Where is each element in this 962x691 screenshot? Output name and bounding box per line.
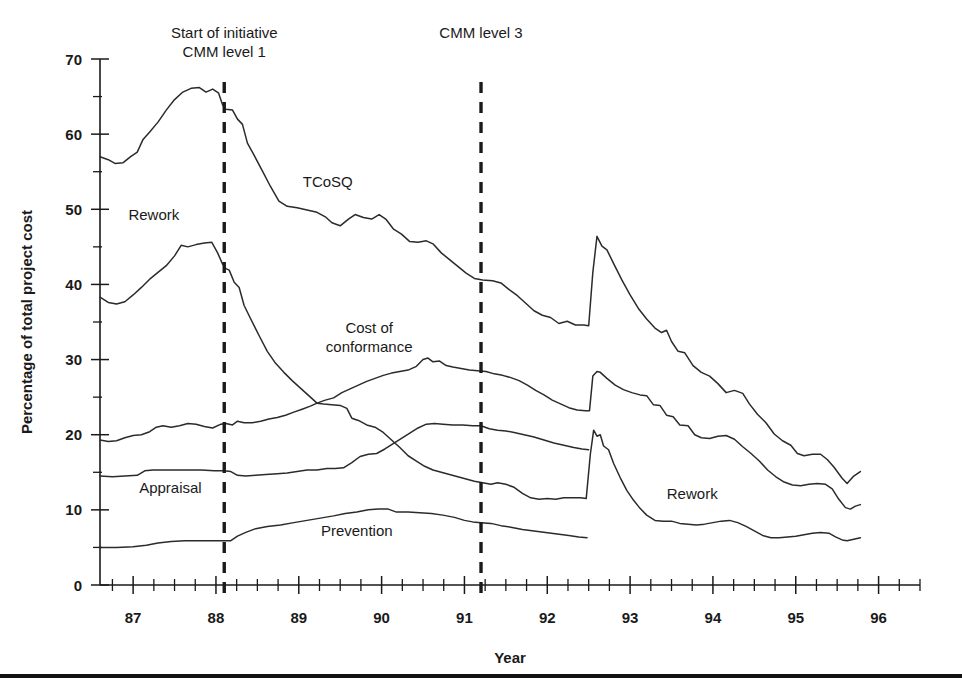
series-label-rework-secondary: Rework (667, 485, 718, 502)
x-axis-tick-label: 96 (870, 609, 887, 626)
annotation-label-start-of-initiative: Start of initiative (171, 24, 278, 41)
y-axis-tick-label: 30 (65, 351, 82, 368)
x-axis-tick-label: 90 (373, 609, 390, 626)
series-label-TCoSQ: TCoSQ (303, 173, 353, 190)
series-line-appraisal (100, 423, 589, 476)
y-axis-tick-label: 10 (65, 501, 82, 518)
y-axis-tick-label: 40 (65, 276, 82, 293)
y-axis-tick-label: 0 (74, 577, 82, 594)
annotation-label-cmm-level-3: CMM level 3 (439, 24, 522, 41)
series-group (100, 88, 860, 548)
series-label-cost-of-conformance: conformance (326, 338, 413, 355)
events-group: Start of initiativeCMM level 1CMM level … (171, 24, 523, 593)
series-label-cost-of-conformance: Cost of (345, 319, 393, 336)
figure-container: 01020304050607087888990919293949596YearP… (0, 0, 962, 691)
x-axis-tick-label: 93 (622, 609, 639, 626)
x-axis-tick-label: 92 (539, 609, 556, 626)
bottom-divider-rule (0, 674, 962, 678)
series-label-rework: Rework (128, 206, 179, 223)
axes-group: 01020304050607087888990919293949596YearP… (18, 51, 920, 667)
x-axis-title: Year (494, 649, 526, 666)
x-axis-tick-label: 94 (705, 609, 722, 626)
series-label-prevention: Prevention (321, 522, 393, 539)
y-axis-tick-label: 20 (65, 426, 82, 443)
x-axis-tick-label: 89 (290, 609, 307, 626)
y-axis-title: Percentage of total project cost (18, 210, 35, 434)
y-axis-tick-label: 50 (65, 201, 82, 218)
annotation-label-start-of-initiative: CMM level 1 (183, 43, 266, 60)
y-axis-tick-label: 70 (65, 51, 82, 68)
chart-svg: 01020304050607087888990919293949596YearP… (0, 0, 962, 691)
x-axis-tick-label: 95 (787, 609, 804, 626)
y-axis-tick-label: 60 (65, 126, 82, 143)
x-axis-tick-label: 91 (456, 609, 473, 626)
x-axis-tick-label: 87 (125, 609, 142, 626)
series-label-appraisal: Appraisal (139, 479, 202, 496)
labels-group: TCoSQReworkReworkCost ofconformanceAppra… (128, 173, 718, 539)
x-axis-tick-label: 88 (208, 609, 225, 626)
